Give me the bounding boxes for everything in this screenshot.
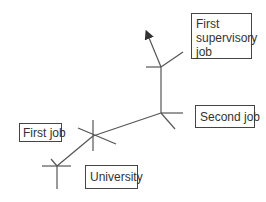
label-line: job [196, 45, 247, 59]
label-line: supervisory [196, 31, 247, 45]
first-job-box: First job [19, 123, 62, 142]
edge-university-firstjob [57, 136, 93, 166]
arrow-icon [147, 33, 161, 67]
label-line: First [196, 17, 247, 31]
second-job-box: Second job [195, 105, 255, 128]
career-path-diagram: First supervisory job Second job First j… [0, 0, 266, 202]
first-supervisory-job-box: First supervisory job [191, 13, 252, 59]
university-box: University [85, 165, 138, 189]
edge-firstjob-secondjob [93, 113, 161, 136]
